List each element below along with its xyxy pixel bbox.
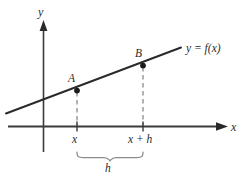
x-axis-label: x [231, 121, 236, 133]
brace-h [77, 152, 143, 161]
function-line [6, 48, 181, 114]
x-axis-arrowhead [216, 122, 228, 131]
figure-canvas: y x A B y = f(x) x x + h h [0, 0, 244, 187]
tick-label-x-plus-h: x + h [128, 134, 152, 146]
point-b-label: B [135, 48, 142, 60]
function-equation-label: y = f(x) [186, 43, 221, 55]
point-a-marker [74, 88, 80, 94]
y-axis-arrowhead [40, 20, 48, 31]
tick-label-x: x [72, 134, 77, 146]
point-a-label: A [68, 73, 75, 85]
point-b-marker [140, 63, 146, 69]
brace-h-label: h [105, 163, 111, 175]
y-axis-label: y [38, 6, 43, 18]
math-diagram [0, 0, 244, 187]
